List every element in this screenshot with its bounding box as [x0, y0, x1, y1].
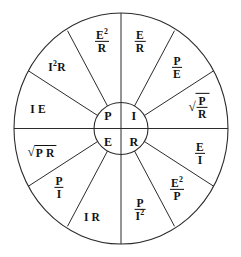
radicand: PR: [35, 145, 57, 159]
denominator: E: [172, 68, 182, 81]
hub-quadrant-current: I: [132, 110, 137, 122]
denominator: I2: [135, 210, 146, 223]
denominator: I: [195, 154, 205, 167]
fraction-p-over-i: P I: [54, 175, 63, 201]
hub-label-r: R: [130, 136, 139, 148]
sector-resistance-e-squared-over-p: E2 P: [170, 177, 184, 203]
denominator: R: [197, 108, 208, 121]
hub-quadrant-voltage: E: [104, 136, 112, 148]
sector-current-p-over-e: P E: [172, 55, 182, 81]
sector-voltage-p-over-i: P I: [54, 175, 63, 201]
product-ir: IR: [84, 212, 100, 224]
fraction-e-over-r: E R: [135, 29, 146, 55]
sector-voltage-i-times-r: IR: [84, 212, 100, 224]
sector-current-e-over-r: E R: [135, 29, 146, 55]
sector-resistance-e-over-i: E I: [195, 141, 205, 167]
ohms-law-wheel-diagram: P I E R E2 R I2R IE √PR P I IR: [0, 0, 241, 257]
numerator: E2: [170, 177, 184, 190]
product-i2r: I2R: [48, 62, 65, 74]
sector-power-i-times-e: IE: [30, 104, 46, 116]
denominator: I: [54, 188, 63, 201]
numerator: E: [195, 141, 205, 154]
fraction-e-over-i: E I: [195, 141, 205, 167]
sector-power-e-squared-over-r: E2 R: [95, 29, 109, 55]
sqrt-p-over-r: √ P R: [189, 93, 210, 121]
sector-resistance-p-over-i-squared: P I2: [135, 197, 146, 223]
hub-label-p: P: [104, 110, 112, 122]
fraction-e2-over-p: E2 P: [170, 177, 184, 203]
sector-power-i-squared-r: I2R: [48, 62, 65, 74]
numerator: E: [135, 29, 146, 42]
radical-icon: √: [27, 145, 34, 158]
exponent: 2: [179, 175, 183, 184]
product-ie: IE: [30, 104, 46, 116]
fraction-p-over-i2: P I2: [135, 197, 146, 223]
denominator: R: [95, 42, 109, 55]
hub-label-e: E: [104, 136, 112, 148]
sector-current-sqrt-p-over-r: √ P R: [189, 93, 210, 121]
numerator: P: [172, 55, 182, 68]
denominator: R: [135, 42, 146, 55]
radicand: P R: [196, 93, 210, 121]
fraction-e2-over-r: E2 R: [95, 29, 109, 55]
hub-label-i: I: [132, 110, 137, 122]
sector-voltage-sqrt-p-times-r: √PR: [27, 145, 56, 159]
wheel-geometry: [0, 0, 241, 257]
hub-quadrant-resistance: R: [130, 136, 139, 148]
fraction-p-over-e: P E: [172, 55, 182, 81]
radical-icon: √: [189, 100, 196, 113]
exponent: 2: [104, 27, 108, 36]
fraction-p-over-r: P R: [197, 95, 208, 121]
numerator: P: [54, 175, 63, 188]
numerator: E2: [95, 29, 109, 42]
exponent: 2: [140, 208, 144, 217]
hub-quadrant-power: P: [104, 110, 112, 122]
denominator: P: [170, 190, 184, 203]
numerator: P: [197, 95, 208, 108]
sqrt-p-r: √PR: [27, 145, 56, 159]
